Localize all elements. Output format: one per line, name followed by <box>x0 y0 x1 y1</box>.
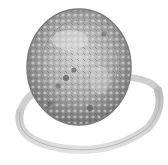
oval-stone <box>27 9 131 125</box>
ring-illustration <box>0 0 168 165</box>
ring-photo: Ring with large oval pavé-set stone <box>0 0 168 165</box>
